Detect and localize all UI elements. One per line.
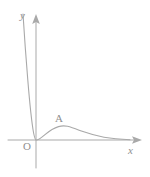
function-curve bbox=[23, 14, 130, 140]
function-graph-figure: y x A O bbox=[0, 0, 150, 177]
x-axis-label: x bbox=[128, 145, 133, 156]
y-axis-label: y bbox=[20, 10, 25, 21]
origin-label: O bbox=[23, 141, 31, 152]
point-a-label: A bbox=[55, 113, 63, 124]
